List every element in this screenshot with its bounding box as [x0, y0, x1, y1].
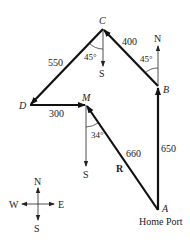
point-label-a: A — [161, 203, 169, 214]
compass-n: N — [34, 176, 41, 187]
point-label-c: C — [99, 15, 106, 26]
angle-label-b: 45° — [140, 54, 153, 64]
point-label-b: B — [163, 84, 169, 95]
compass-w: W — [9, 199, 19, 210]
vector-diagram: C B D M A Home Port 400 550 300 660 650 … — [0, 0, 190, 244]
home-port-label: Home Port — [139, 216, 183, 227]
south-label-c: S — [99, 68, 105, 79]
angle-arc-m — [86, 123, 98, 127]
compass-s: S — [34, 223, 40, 234]
length-label-r: 660 — [126, 148, 141, 159]
compass-rose: N S E W — [9, 176, 64, 234]
vector-cd — [31, 29, 103, 104]
point-label-m: M — [81, 92, 91, 103]
point-label-d: D — [18, 100, 27, 111]
length-label-bc: 400 — [122, 36, 137, 47]
length-label-dm: 300 — [49, 108, 64, 119]
angle-arc-c — [89, 43, 103, 49]
south-label-m: S — [83, 169, 89, 180]
angle-label-c: 45° — [84, 52, 97, 62]
length-label-cd: 550 — [48, 57, 63, 68]
vector-r — [87, 106, 158, 210]
north-label-b: N — [154, 33, 161, 44]
angle-arc-b — [145, 68, 158, 73]
angle-label-m: 34° — [91, 130, 104, 140]
length-label-ab: 650 — [161, 143, 176, 154]
resultant-label: R — [116, 163, 124, 174]
compass-e: E — [58, 199, 64, 210]
